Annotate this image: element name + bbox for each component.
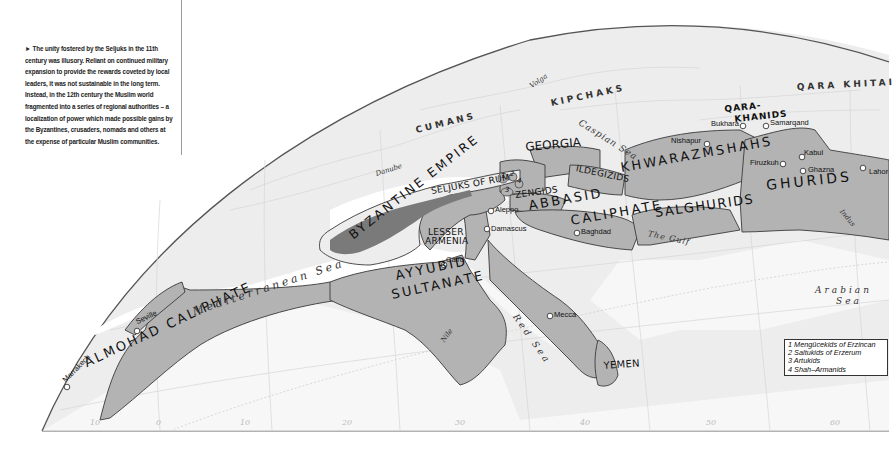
label-bukhara: Bukhara (711, 119, 739, 128)
map-legend: 1 Mengücekids of Erzincan 2 Saltukids of… (784, 339, 888, 376)
tick-lon-60e: 60 (830, 418, 840, 427)
label-lahore: Lahor (869, 167, 888, 176)
tick-lon-0: 0 (156, 418, 161, 427)
tick-lon-10e: 10 (240, 418, 250, 427)
label-samarqand: Samarqand (770, 118, 809, 127)
label-mecca: Mecca (554, 310, 576, 319)
label-lesser-armenia-2: ARMENIA (425, 236, 469, 246)
label-kabul: Kabul (804, 148, 823, 157)
label-num2: 2 (510, 170, 515, 178)
label-num3: 3 (505, 186, 510, 194)
label-num4: 4 (517, 177, 522, 185)
label-cairo: Cairo (446, 255, 464, 264)
label-aleppo: Aleppo (495, 205, 518, 214)
tick-lon-10w: 10 (90, 418, 100, 427)
label-firuzkuh: Firuzkuh (750, 158, 779, 167)
label-arabian-sea-2: Sea (836, 296, 862, 306)
tick-lon-20e: 20 (342, 418, 352, 427)
label-num1: 1 (501, 172, 506, 180)
label-nishapur: Nishapur (671, 136, 701, 145)
label-damascus: Damascus (491, 224, 526, 233)
label-arabian-sea-1: Arabian (815, 285, 872, 295)
legend-item-4: 4 Shah–Armanids (788, 366, 884, 374)
label-ghazna: Ghazna (808, 165, 834, 174)
label-baghdad: Baghdad (581, 227, 611, 236)
tick-lon-40e: 40 (580, 418, 590, 427)
tick-lon-30e: 30 (455, 418, 465, 427)
tick-lon-50e: 50 (706, 418, 716, 427)
